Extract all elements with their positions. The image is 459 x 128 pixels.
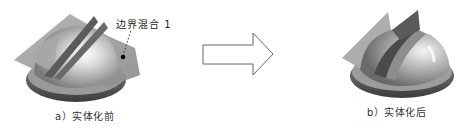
- caption-after: b）实体化后: [367, 104, 426, 119]
- callout-label-boundary-blend: 边界混合 1: [116, 16, 172, 31]
- figure-after-solidify: b）实体化后: [330, 0, 459, 128]
- right-arrow-icon: [200, 30, 276, 78]
- figure-before-solidify: 边界混合 1 a）实体化前: [0, 0, 165, 128]
- caption-before: a）实体化前: [55, 108, 114, 123]
- model-after-illustration: [330, 0, 459, 105]
- callout-dot: [121, 55, 126, 60]
- transition-arrow: [200, 30, 276, 78]
